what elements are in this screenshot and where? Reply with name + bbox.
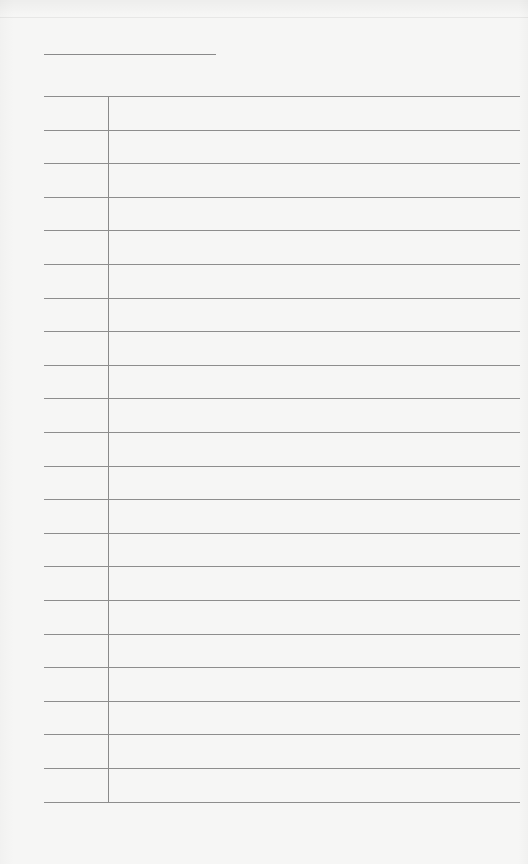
ruled-line bbox=[44, 667, 520, 668]
page-top-edge bbox=[0, 17, 528, 18]
ruled-line bbox=[44, 701, 520, 702]
ruled-line bbox=[44, 264, 520, 265]
ruled-line bbox=[44, 768, 520, 769]
ruled-line bbox=[44, 734, 520, 735]
ruled-line bbox=[44, 398, 520, 399]
lined-paper-page bbox=[0, 0, 528, 864]
ruled-writing-area bbox=[44, 96, 520, 802]
ruled-line bbox=[44, 634, 520, 635]
ruled-line bbox=[44, 163, 520, 164]
ruled-line bbox=[44, 96, 520, 97]
ruled-line bbox=[44, 298, 520, 299]
ruled-line bbox=[44, 230, 520, 231]
ruled-line bbox=[44, 365, 520, 366]
ruled-line bbox=[44, 432, 520, 433]
ruled-line bbox=[44, 533, 520, 534]
ruled-line bbox=[44, 466, 520, 467]
margin-line bbox=[108, 96, 109, 803]
ruled-line bbox=[44, 566, 520, 567]
ruled-line bbox=[44, 600, 520, 601]
ruled-line bbox=[44, 197, 520, 198]
ruled-line bbox=[44, 802, 520, 803]
ruled-line bbox=[44, 499, 520, 500]
ruled-line bbox=[44, 130, 520, 131]
title-line bbox=[44, 54, 216, 55]
ruled-line bbox=[44, 331, 520, 332]
